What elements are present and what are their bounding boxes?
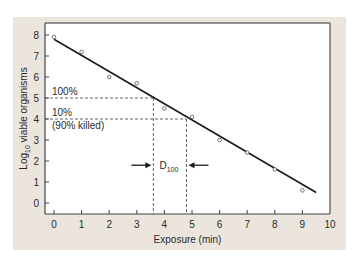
- data-point: [107, 75, 111, 79]
- x-tick-label: 3: [134, 219, 140, 230]
- x-tick-label: 4: [162, 219, 168, 230]
- plot-area: 012345678012345678910Exposure (min)Log10…: [18, 23, 336, 245]
- y-tick-label: 8: [33, 30, 39, 41]
- data-point: [273, 168, 277, 172]
- x-tick-label: 1: [79, 219, 85, 230]
- y-tick-label: 2: [33, 156, 39, 167]
- y-tick-label: 5: [33, 93, 39, 104]
- label-10-percent: 10%: [52, 107, 72, 118]
- x-tick-label: 7: [244, 219, 250, 230]
- label-100-percent: 100%: [52, 86, 78, 97]
- y-tick-label: 7: [33, 51, 39, 62]
- data-point: [218, 138, 222, 142]
- x-tick-label: 2: [106, 219, 112, 230]
- data-point: [190, 115, 194, 119]
- y-axis-label: Log10 viable organisms: [18, 67, 31, 169]
- data-point: [245, 151, 249, 155]
- plot-background: [45, 23, 330, 214]
- x-tick-label: 5: [189, 219, 195, 230]
- y-tick-label: 4: [33, 114, 39, 125]
- x-tick-label: 6: [217, 219, 223, 230]
- y-tick-label: 3: [33, 135, 39, 146]
- data-point: [301, 189, 305, 193]
- x-tick-label: 10: [324, 219, 336, 230]
- chart: 012345678012345678910Exposure (min)Log10…: [0, 0, 356, 263]
- x-axis-label: Exposure (min): [154, 234, 222, 245]
- x-tick-label: 8: [272, 219, 278, 230]
- data-point: [52, 35, 56, 39]
- y-tick-label: 6: [33, 72, 39, 83]
- x-tick-label: 9: [300, 219, 306, 230]
- y-tick-label: 1: [33, 177, 39, 188]
- label-90-killed: (90% killed): [52, 120, 104, 131]
- data-point: [163, 107, 167, 111]
- data-point: [135, 82, 139, 86]
- x-tick-label: 0: [51, 219, 57, 230]
- data-point: [80, 50, 84, 54]
- y-tick-label: 0: [33, 198, 39, 209]
